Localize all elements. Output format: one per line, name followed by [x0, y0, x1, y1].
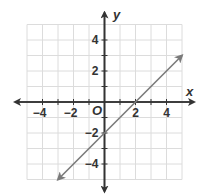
y-tick-label: 4 [92, 33, 99, 47]
x-tick-label: −2 [64, 106, 78, 120]
y-axis-label: y [112, 7, 121, 22]
x-tick-label: −4 [33, 106, 47, 120]
y-tick-label: −2 [85, 126, 99, 140]
x-axis-label: x [185, 84, 194, 99]
origin-label: O [92, 103, 102, 118]
x-tick-label: 4 [163, 106, 170, 120]
y-tick-label: −4 [85, 157, 99, 171]
coordinate-plane: −4−22442−2−4 x y O [0, 0, 201, 196]
x-tick-label: 2 [132, 106, 139, 120]
axes [15, 13, 194, 192]
y-tick-label: 2 [92, 64, 99, 78]
